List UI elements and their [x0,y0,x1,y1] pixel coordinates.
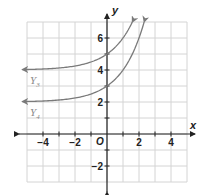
chart: −4−224−2246OxyY3Y4 [0,0,207,195]
labels: −4−224−2246OxyY3Y4 [30,4,197,172]
x-tick-label: 4 [168,137,174,148]
y-tick-label: 6 [97,33,103,44]
x-tick-label: −2 [69,137,81,148]
y-tick-label: 4 [97,65,103,76]
x-axis-label: x [189,119,197,131]
series-label-y4: Y4 [30,106,40,121]
curves [22,22,144,101]
y-tick-label: −2 [92,161,104,172]
axes [19,14,195,192]
x-tick-label: −4 [37,137,49,148]
series-label-y3: Y3 [30,74,40,89]
x-tick-label: 2 [136,137,142,148]
curve-y3 [22,22,132,69]
y-tick-label: 2 [97,97,103,108]
origin-label: O [96,136,104,147]
y-axis-label: y [111,4,119,16]
